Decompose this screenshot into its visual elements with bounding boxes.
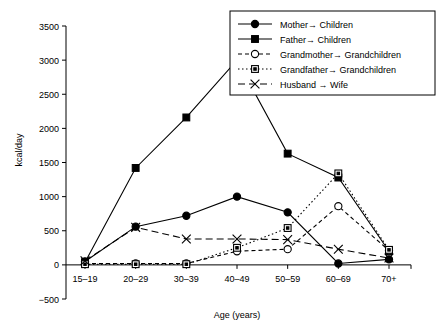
x-axis-tick-label: 60–69 <box>326 274 351 284</box>
y-axis-tick-label: 2500 <box>39 90 59 100</box>
series-grandmother-grandchildren <box>81 203 392 268</box>
x-axis-tick-label: 50–59 <box>275 274 300 284</box>
data-point-marker <box>234 244 241 251</box>
legend-marker <box>251 20 258 27</box>
data-point-marker <box>335 260 342 267</box>
data-point-marker <box>284 150 291 157</box>
legend-item[interactable]: Mother→ Children <box>238 20 353 30</box>
legend-item-label: Husband → Wife <box>280 80 348 90</box>
series-mother-children <box>81 193 392 267</box>
marker-inner <box>185 263 187 265</box>
data-point-marker <box>284 246 291 253</box>
y-axis-title: kcal/day <box>14 133 24 167</box>
legend-item-label: Grandfather→ Grandchildren <box>280 65 396 75</box>
y-axis-tick-label: −500 <box>39 295 59 305</box>
legend-item-label: Father→ Children <box>280 35 351 45</box>
y-axis-tick-label: 0 <box>54 260 59 270</box>
marker-inner <box>134 263 136 265</box>
data-point-marker <box>386 246 393 253</box>
x-axis-tick-label: 15–19 <box>72 274 97 284</box>
data-point-marker <box>132 165 139 172</box>
marker-inner <box>286 227 288 229</box>
data-point-marker <box>284 209 291 216</box>
x-axis-tick-label: 20–29 <box>123 274 148 284</box>
y-axis-tick-label: 3500 <box>39 22 59 32</box>
y-axis-tick-label: 1500 <box>39 158 59 168</box>
legend-marker <box>252 36 259 43</box>
marker-inner <box>254 68 256 70</box>
legend-item-label: Mother→ Children <box>280 20 353 30</box>
data-point-marker <box>335 203 342 210</box>
line-chart: −500050010001500200025003000350015–1920–… <box>0 0 439 329</box>
marker-inner <box>84 263 86 265</box>
y-axis-tick-label: 3000 <box>39 56 59 66</box>
data-point-marker <box>132 261 139 268</box>
legend-marker <box>251 50 258 57</box>
x-axis-tick-label: 40–49 <box>224 274 249 284</box>
x-axis-tick-label: 70+ <box>381 274 396 284</box>
data-point-marker <box>335 170 342 177</box>
x-axis-title: Age (years) <box>214 310 261 320</box>
legend: Mother→ ChildrenFather→ ChildrenGrandmot… <box>230 11 435 95</box>
y-axis-tick-label: 500 <box>44 226 59 236</box>
legend-item-label: Grandmother→ Grandchildren <box>280 50 401 60</box>
data-point-marker <box>385 256 392 263</box>
data-point-marker <box>183 114 190 121</box>
y-axis-tick-label: 2000 <box>39 124 59 134</box>
marker-inner <box>388 249 390 251</box>
data-point-marker <box>284 225 291 232</box>
marker-inner <box>337 172 339 174</box>
marker-inner <box>236 247 238 249</box>
x-axis-tick-label: 30–39 <box>174 274 199 284</box>
data-point-marker <box>183 261 190 268</box>
data-point-marker <box>82 261 89 268</box>
chart-container: −500050010001500200025003000350015–1920–… <box>0 0 439 329</box>
legend-marker <box>252 66 259 73</box>
data-point-marker <box>233 193 240 200</box>
y-axis-tick-label: 1000 <box>39 192 59 202</box>
data-point-marker <box>183 212 190 219</box>
